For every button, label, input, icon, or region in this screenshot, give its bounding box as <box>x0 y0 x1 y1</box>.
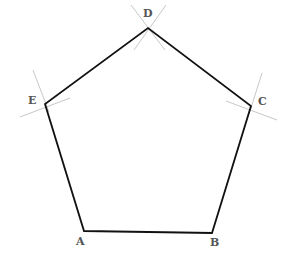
vertex-label-c: C <box>258 96 267 107</box>
vertex-label-e: E <box>28 95 36 106</box>
vertex-label-b: B <box>210 237 219 248</box>
construction-arc-c-5 <box>226 101 277 120</box>
vertex-label-a: A <box>76 236 85 247</box>
pentagon-shape <box>45 28 251 233</box>
vertex-label-d: D <box>143 8 153 19</box>
construction-arcs <box>20 5 277 120</box>
pentagon-diagram <box>0 0 289 256</box>
